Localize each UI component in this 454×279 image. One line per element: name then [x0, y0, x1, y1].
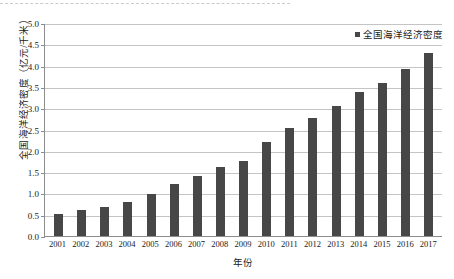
bar	[147, 194, 156, 236]
bar-slot	[371, 24, 394, 236]
bar-slot	[301, 24, 324, 236]
bar-slot	[278, 24, 301, 236]
bar	[77, 210, 86, 236]
x-tick-label: 2011	[278, 239, 301, 249]
bar-slot	[186, 24, 209, 236]
bar-slot	[325, 24, 348, 236]
x-axis-ticks: 2001200220032004200520062007200820092010…	[44, 239, 442, 249]
x-tick-label: 2002	[69, 239, 92, 249]
x-tick-label: 2004	[116, 239, 139, 249]
bar	[216, 167, 225, 236]
x-tick-label: 2001	[46, 239, 69, 249]
bar	[100, 207, 109, 236]
legend-label: 全国海洋经济密度	[363, 27, 443, 41]
y-tick-label: 3.0	[28, 104, 39, 114]
bar	[424, 53, 433, 236]
bar-series	[45, 24, 442, 236]
y-tick-label: 0.5	[28, 211, 39, 221]
bar	[332, 106, 341, 236]
bar	[355, 92, 364, 236]
bar-slot	[255, 24, 278, 236]
x-tick-label: 2009	[231, 239, 254, 249]
bar	[262, 142, 271, 236]
chart-legend: 全国海洋经济密度	[355, 27, 443, 41]
bar-slot	[70, 24, 93, 236]
bar	[308, 118, 317, 236]
bar	[123, 202, 132, 237]
x-tick-label: 2006	[162, 239, 185, 249]
x-tick-label: 2013	[324, 239, 347, 249]
y-tick-mark	[41, 237, 45, 238]
x-axis-title: 年份	[44, 255, 442, 269]
bar	[54, 214, 63, 236]
y-tick-label: 4.0	[28, 62, 39, 72]
y-tick-label: 1.0	[28, 189, 39, 199]
x-tick-label: 2015	[370, 239, 393, 249]
bar	[239, 161, 248, 236]
x-tick-label: 2007	[185, 239, 208, 249]
y-tick-label: 2.5	[28, 126, 39, 136]
bar-slot	[116, 24, 139, 236]
bar-slot	[232, 24, 255, 236]
bar-slot	[417, 24, 440, 236]
plot-area: 0.00.51.01.52.02.53.03.54.04.55.0	[44, 24, 442, 237]
y-tick-label: 3.5	[28, 83, 39, 93]
bar-slot	[93, 24, 116, 236]
bar	[285, 128, 294, 236]
y-tick-label: 5.0	[28, 19, 39, 29]
y-tick-label: 0.0	[28, 232, 39, 242]
bar-slot	[163, 24, 186, 236]
chart-figure: 全国海洋经济密度（亿元/千米） 0.00.51.01.52.02.53.03.5…	[0, 0, 454, 279]
x-tick-label: 2003	[92, 239, 115, 249]
bar-slot	[47, 24, 70, 236]
x-tick-label: 2016	[394, 239, 417, 249]
legend-swatch-icon	[355, 32, 360, 37]
bar	[378, 83, 387, 236]
x-tick-label: 2014	[347, 239, 370, 249]
x-tick-label: 2010	[255, 239, 278, 249]
bar-slot	[140, 24, 163, 236]
bar	[401, 69, 410, 236]
bar-slot	[209, 24, 232, 236]
bar	[170, 184, 179, 236]
bar-slot	[348, 24, 371, 236]
y-tick-label: 2.0	[28, 147, 39, 157]
bar	[193, 176, 202, 236]
x-tick-label: 2005	[139, 239, 162, 249]
y-tick-label: 4.5	[28, 40, 39, 50]
bar-slot	[394, 24, 417, 236]
x-tick-label: 2008	[208, 239, 231, 249]
x-tick-label: 2012	[301, 239, 324, 249]
x-tick-label: 2017	[417, 239, 440, 249]
y-tick-label: 1.5	[28, 168, 39, 178]
top-dashed-rule	[0, 3, 290, 4]
